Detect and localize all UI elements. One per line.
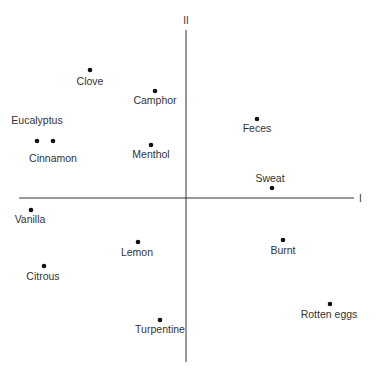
- point-marker: [270, 186, 275, 191]
- x-axis-label: I: [359, 193, 362, 204]
- point-marker: [153, 89, 158, 94]
- point-marker: [51, 139, 56, 144]
- point-marker: [149, 143, 154, 148]
- scatter-plot: I II CloveCamphorEucalyptusCinnamonMenth…: [0, 0, 377, 378]
- data-point: Citrous: [26, 264, 59, 282]
- data-point: Menthol: [132, 143, 169, 160]
- y-axis-label: II: [183, 15, 189, 26]
- data-point: Vanilla: [15, 208, 46, 225]
- point-label: Cinnamon: [29, 152, 77, 164]
- point-marker: [88, 68, 93, 73]
- point-marker: [281, 238, 286, 243]
- point-marker: [35, 139, 40, 144]
- point-label: Sweat: [255, 172, 284, 184]
- point-label: Feces: [243, 122, 272, 134]
- data-point: Sweat: [255, 172, 284, 190]
- point-marker: [328, 302, 333, 307]
- point-label: Citrous: [26, 270, 59, 282]
- data-point: Feces: [243, 117, 272, 134]
- point-label: Burnt: [270, 244, 295, 256]
- data-points: CloveCamphorEucalyptusCinnamonMentholFec…: [11, 68, 357, 335]
- point-marker: [255, 117, 260, 122]
- point-label: Rotten eggs: [301, 308, 358, 320]
- point-label: Vanilla: [15, 213, 46, 225]
- point-marker: [29, 208, 34, 213]
- data-point: Burnt: [270, 238, 295, 256]
- point-label: Camphor: [133, 94, 177, 106]
- point-marker: [136, 240, 141, 245]
- data-point: Camphor: [133, 89, 177, 106]
- data-point: Rotten eggs: [301, 302, 358, 320]
- point-label: Lemon: [121, 246, 153, 258]
- point-label: Menthol: [132, 148, 169, 160]
- point-label: Turpentine: [135, 323, 185, 335]
- data-point: Lemon: [121, 240, 153, 258]
- data-point: Turpentine: [135, 318, 185, 335]
- data-point: Eucalyptus: [11, 114, 62, 143]
- point-label: Clove: [77, 75, 104, 87]
- point-marker: [158, 318, 163, 323]
- point-marker: [42, 264, 47, 269]
- point-label: Eucalyptus: [11, 114, 62, 126]
- data-point: Clove: [77, 68, 104, 87]
